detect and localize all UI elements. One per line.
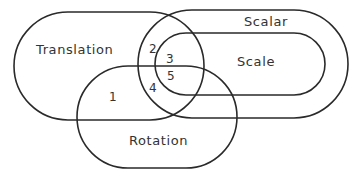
region-5-label: 5 xyxy=(167,69,175,83)
region-3-label: 3 xyxy=(166,52,174,66)
translation-label: Translation xyxy=(35,42,113,57)
region-4-label: 4 xyxy=(149,81,157,95)
venn-diagram: Translation Scalar Scale Rotation 1 2 3 … xyxy=(0,0,362,176)
scalar-label: Scalar xyxy=(244,14,288,29)
rotation-label: Rotation xyxy=(129,133,188,148)
scale-label: Scale xyxy=(237,54,275,69)
region-1-label: 1 xyxy=(109,90,117,104)
region-2-label: 2 xyxy=(149,42,157,56)
rotation-set-shape xyxy=(77,66,237,168)
